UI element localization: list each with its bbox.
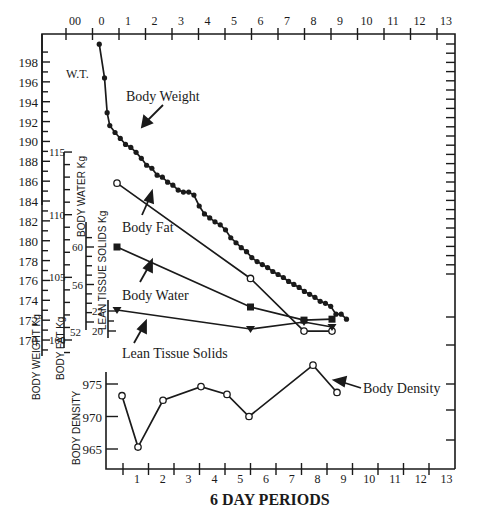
axis-title-body-weight: BODY WEIGHT Kg [31, 314, 42, 400]
body-weight-point [118, 136, 123, 141]
body-water-point [329, 316, 336, 323]
body-weight-point [105, 110, 110, 115]
axis-title-body-density: BODY DENSITY [71, 390, 82, 465]
body-weight-point [302, 289, 307, 294]
top-tick-label: 4 [205, 14, 211, 28]
body-weight-point [139, 156, 144, 161]
body-weight-point [233, 240, 238, 245]
body-fat-label: Body Fat [122, 220, 174, 235]
body-weight-point [97, 42, 102, 47]
body-fat-point [247, 275, 253, 281]
fat-tick-label: 105 [49, 271, 66, 283]
body-weight-point [323, 301, 328, 306]
arrow-lean-tissue-icon [134, 321, 146, 343]
weight-tick-label: 186 [19, 174, 39, 189]
water-tick-label: 60 [72, 241, 84, 253]
body-density-point [119, 393, 125, 399]
density-tick-label: 975 [83, 377, 103, 392]
body-weight-point [160, 175, 165, 180]
body-weight-point [291, 282, 296, 287]
bottom-tick-label: 8 [315, 472, 321, 486]
body-weight-point [249, 255, 254, 260]
body-weight-point [265, 265, 270, 270]
weight-tick-label: 182 [19, 214, 39, 229]
body-weight-point [297, 285, 302, 290]
fat-tick-label: 115 [49, 146, 66, 158]
body-weight-point [344, 317, 349, 322]
bottom-tick-label: 5 [237, 472, 243, 486]
body-weight-point [223, 227, 228, 232]
top-tick-label: 1 [125, 14, 131, 28]
weight-tick-label: 174 [19, 293, 39, 308]
body-weight-point [123, 142, 128, 147]
body-density-point [310, 362, 316, 368]
body-density-point [246, 413, 252, 419]
body-weight-label: Body Weight [126, 89, 200, 104]
body-weight-point [254, 259, 259, 264]
bottom-tick-label: 13 [441, 472, 453, 486]
body-density-line [122, 365, 337, 447]
top-tick-label: 2 [152, 14, 158, 28]
arrow-body-density-icon [334, 377, 361, 388]
axis-title-lean-tissue: LEAN TISSUE SOLIDS Kg [97, 211, 108, 330]
body-weight-point [197, 203, 202, 208]
bottom-tick-label: 12 [415, 472, 427, 486]
weight-tick-label: 192 [19, 115, 39, 130]
body-weight-point [307, 292, 312, 297]
body-weight-point [186, 189, 191, 194]
lean-tissue-label: Lean Tissue Solids [122, 346, 228, 361]
bottom-tick-label: 10 [363, 472, 375, 486]
body-weight-point [112, 130, 117, 135]
body-weight-point [270, 269, 275, 274]
top-tick-label: 12 [414, 14, 426, 28]
wt-label: W.T. [66, 67, 89, 81]
weight-tick-label: 196 [19, 75, 39, 90]
top-tick-label: 0 [99, 14, 105, 28]
body-density-point [334, 389, 340, 395]
bottom-tick-label: 11 [389, 472, 401, 486]
water-tick-label: 56 [72, 279, 84, 291]
arrow-body-weight-icon [142, 105, 163, 127]
bottom-tick-label: 2 [160, 472, 166, 486]
body-weight-point [244, 249, 249, 254]
axis-title-body-fat: BODY FAT Kg [55, 317, 66, 380]
body-weight-point [107, 123, 112, 128]
x-axis-title: 6 DAY PERIODS [210, 491, 330, 508]
body-weight-point [128, 145, 133, 150]
body-weight-point [239, 245, 244, 250]
body-weight-point [318, 299, 323, 304]
body-density-point [135, 444, 141, 450]
body-weight-point [281, 275, 286, 280]
body-weight-point [155, 173, 160, 178]
weight-tick-label: 178 [19, 254, 39, 269]
top-tick-label: 6 [258, 14, 264, 28]
body-fat-point [301, 328, 307, 334]
top-tick-label: 5 [231, 14, 237, 28]
bottom-tick-label: 1 [134, 472, 140, 486]
bottom-tick-label: 6 [263, 472, 269, 486]
water-tick-label: 52 [70, 326, 81, 338]
body-weight-point [202, 211, 207, 216]
body-weight-point [228, 235, 233, 240]
top-tick-label: 9 [337, 14, 343, 28]
body-weight-point [149, 166, 154, 171]
body-composition-chart: 0001234567891011121319819619419219018818… [0, 0, 489, 525]
top-tick-label: 13 [440, 14, 452, 28]
tick-labels: 0001234567891011121319819619419219018818… [19, 14, 453, 486]
body-weight-line [99, 44, 346, 319]
body-fat-line [117, 183, 332, 331]
body-water-line [117, 247, 332, 320]
body-weight-point [191, 192, 196, 197]
body-weight-point [260, 262, 265, 267]
body-density-point [160, 397, 166, 403]
weight-tick-label: 198 [19, 55, 39, 70]
lean-tissue-solids-point [246, 326, 255, 333]
body-fat-point [114, 180, 120, 186]
arrow-body-water-icon [140, 260, 152, 282]
top-tick-label: 8 [311, 14, 317, 28]
body-weight-point [176, 187, 181, 192]
top-tick-label: 7 [284, 14, 290, 28]
weight-tick-label: 176 [19, 273, 39, 288]
body-density-point [198, 383, 204, 389]
body-weight-point [286, 279, 291, 284]
